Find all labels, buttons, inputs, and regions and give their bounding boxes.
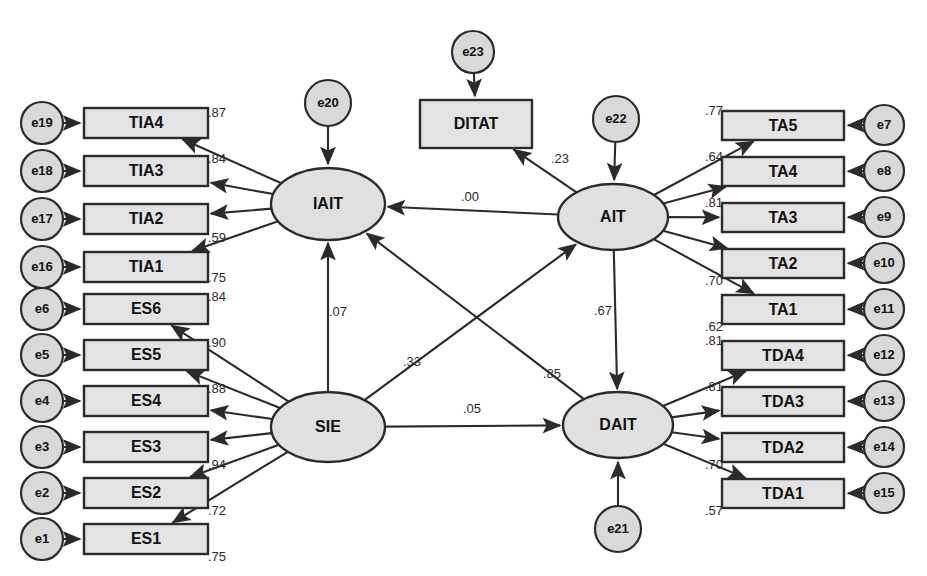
coefficient-label-SIE-ES4: .88 bbox=[208, 381, 226, 396]
observed-variable-TIA3[interactable]: TIA3 bbox=[84, 156, 208, 186]
coefficient-label-AIT-TA1: .62 bbox=[705, 319, 723, 334]
latent-variable-label: IAIT bbox=[313, 195, 343, 212]
observed-variable-TA1[interactable]: TA1 bbox=[722, 295, 844, 324]
error-term-e19[interactable]: e19 bbox=[21, 102, 63, 144]
observed-variable-TIA1[interactable]: TIA1 bbox=[84, 252, 208, 282]
coefficient-label-IAIT-TIA3: .84 bbox=[208, 151, 226, 166]
error-term-e10[interactable]: e10 bbox=[864, 243, 904, 283]
observed-variable-ES3[interactable]: ES3 bbox=[84, 432, 208, 462]
coefficient-label-SIE-ES6: .84 bbox=[208, 289, 226, 304]
coefficient-label-SIE-AIT: .33 bbox=[403, 354, 421, 369]
observed-variable-label: ES4 bbox=[131, 392, 161, 409]
coefficient-label-SIE-ES5: .90 bbox=[208, 335, 226, 350]
observed-variable-TDA2[interactable]: TDA2 bbox=[722, 433, 844, 462]
observed-variable-label: TA5 bbox=[768, 117, 797, 134]
latent-variable-IAIT[interactable]: IAIT bbox=[271, 168, 385, 240]
error-term-e23[interactable]: e23 bbox=[452, 31, 494, 73]
error-term-e1[interactable]: e1 bbox=[21, 518, 63, 560]
error-term-label: e8 bbox=[877, 163, 891, 178]
coefficient-label-AIT-DAIT: .67 bbox=[594, 303, 612, 318]
error-term-e21[interactable]: e21 bbox=[595, 506, 641, 552]
error-term-label: e15 bbox=[873, 485, 895, 500]
error-term-label: e16 bbox=[31, 259, 53, 274]
measurement-path-SIE-to-ES4 bbox=[211, 410, 273, 419]
observed-variable-label: ES6 bbox=[131, 300, 161, 317]
error-term-e13[interactable]: e13 bbox=[864, 381, 904, 421]
coefficient-label-AIT-IAIT: .00 bbox=[461, 189, 479, 204]
error-term-label: e6 bbox=[35, 301, 49, 316]
observed-variable-label: TIA2 bbox=[129, 210, 164, 227]
observed-variable-ES4[interactable]: ES4 bbox=[84, 386, 208, 416]
observed-variable-TDA3[interactable]: TDA3 bbox=[722, 387, 844, 416]
observed-variable-TA5[interactable]: TA5 bbox=[722, 111, 844, 140]
error-term-e3[interactable]: e3 bbox=[21, 426, 63, 468]
measurement-path-AIT-to-TA2 bbox=[663, 231, 727, 249]
coefficient-label-IAIT-TIA1: .75 bbox=[208, 270, 226, 285]
error-term-label: e18 bbox=[31, 163, 53, 178]
observed-variable-DITAT[interactable]: DITAT bbox=[420, 100, 532, 148]
error-term-e4[interactable]: e4 bbox=[21, 380, 63, 422]
error-term-e9[interactable]: e9 bbox=[864, 197, 904, 237]
coefficient-label-SIE-IAIT: .07 bbox=[329, 304, 347, 319]
error-term-label: e7 bbox=[877, 117, 891, 132]
error-term-label: e5 bbox=[35, 347, 49, 362]
error-term-label: e21 bbox=[607, 521, 629, 536]
observed-variable-TDA4[interactable]: TDA4 bbox=[722, 341, 844, 370]
error-term-label: e13 bbox=[873, 393, 895, 408]
error-path-e23-to-DITAT bbox=[474, 73, 475, 96]
coefficient-label-DAIT-IAIT: .85 bbox=[543, 366, 561, 381]
observed-variable-ES2[interactable]: ES2 bbox=[84, 478, 208, 508]
error-term-e5[interactable]: e5 bbox=[21, 334, 63, 376]
coefficient-label-SIE-ES1: .75 bbox=[208, 549, 226, 564]
observed-variable-TA4[interactable]: TA4 bbox=[722, 157, 844, 186]
error-term-e12[interactable]: e12 bbox=[864, 335, 904, 375]
coefficient-label-AIT-TA5: .77 bbox=[705, 103, 723, 118]
observed-variable-label: ES5 bbox=[131, 346, 161, 363]
error-term-e17[interactable]: e17 bbox=[21, 198, 63, 240]
coefficient-label-SIE-DAIT: .05 bbox=[463, 401, 481, 416]
observed-variable-label: TIA4 bbox=[129, 114, 164, 131]
coefficient-label-AIT-TA2: .70 bbox=[705, 273, 723, 288]
error-term-label: e14 bbox=[873, 439, 895, 454]
nodes-layer: TIA4TIA3TIA2TIA1ES6ES5ES4ES3ES2ES1DITATT… bbox=[21, 31, 904, 560]
error-term-e15[interactable]: e15 bbox=[864, 473, 904, 513]
observed-variable-TA3[interactable]: TA3 bbox=[722, 203, 844, 232]
observed-variable-label: TIA3 bbox=[129, 162, 164, 179]
coefficient-label-AIT-DITAT: .23 bbox=[551, 151, 569, 166]
coefficient-label-AIT-TA3: .81 bbox=[705, 195, 723, 210]
measurement-path-IAIT-to-TIA3 bbox=[211, 183, 273, 194]
observed-variable-label: ES3 bbox=[131, 438, 161, 455]
error-term-label: e17 bbox=[31, 211, 53, 226]
observed-variable-label: TA2 bbox=[768, 255, 797, 272]
error-term-e14[interactable]: e14 bbox=[864, 427, 904, 467]
latent-variable-DAIT[interactable]: DAIT bbox=[563, 392, 673, 458]
error-term-e22[interactable]: e22 bbox=[593, 96, 639, 142]
error-term-e18[interactable]: e18 bbox=[21, 150, 63, 192]
latent-variable-AIT[interactable]: AIT bbox=[558, 184, 668, 250]
observed-variable-ES1[interactable]: ES1 bbox=[84, 524, 208, 554]
error-term-e8[interactable]: e8 bbox=[864, 151, 904, 191]
coefficient-label-SIE-ES3: .94 bbox=[208, 457, 226, 472]
error-term-label: e23 bbox=[462, 44, 484, 59]
structural-path-AIT-to-DAIT bbox=[614, 250, 617, 389]
error-term-label: e4 bbox=[35, 393, 50, 408]
observed-variable-label: TIA1 bbox=[129, 258, 164, 275]
observed-variable-label: TDA2 bbox=[762, 439, 804, 456]
error-term-e16[interactable]: e16 bbox=[21, 246, 63, 288]
observed-variable-TIA2[interactable]: TIA2 bbox=[84, 204, 208, 234]
structural-path-AIT-to-IAIT bbox=[388, 207, 558, 215]
measurement-path-DAIT-to-TDA2 bbox=[672, 432, 719, 438]
observed-variable-TA2[interactable]: TA2 bbox=[722, 249, 844, 278]
observed-variable-ES6[interactable]: ES6 bbox=[84, 294, 208, 324]
error-term-e6[interactable]: e6 bbox=[21, 288, 63, 330]
error-term-e2[interactable]: e2 bbox=[21, 472, 63, 514]
observed-variable-TDA1[interactable]: TDA1 bbox=[722, 479, 844, 508]
latent-variable-label: DAIT bbox=[599, 416, 637, 433]
latent-variable-SIE[interactable]: SIE bbox=[271, 392, 385, 462]
error-term-e20[interactable]: e20 bbox=[305, 80, 351, 126]
sem-diagram-canvas: TIA4TIA3TIA2TIA1ES6ES5ES4ES3ES2ES1DITATT… bbox=[0, 0, 927, 576]
error-term-e7[interactable]: e7 bbox=[864, 105, 904, 145]
error-term-e11[interactable]: e11 bbox=[864, 289, 904, 329]
observed-variable-TIA4[interactable]: TIA4 bbox=[84, 108, 208, 138]
observed-variable-ES5[interactable]: ES5 bbox=[84, 340, 208, 370]
